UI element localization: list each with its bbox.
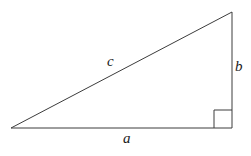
base-label-a: a xyxy=(123,131,131,146)
right-triangle-figure: c a b xyxy=(0,0,251,156)
hypotenuse-label-c: c xyxy=(107,54,114,69)
right-angle-marker-icon xyxy=(214,110,232,128)
height-label-b: b xyxy=(235,59,243,74)
triangle-outline xyxy=(11,12,232,128)
